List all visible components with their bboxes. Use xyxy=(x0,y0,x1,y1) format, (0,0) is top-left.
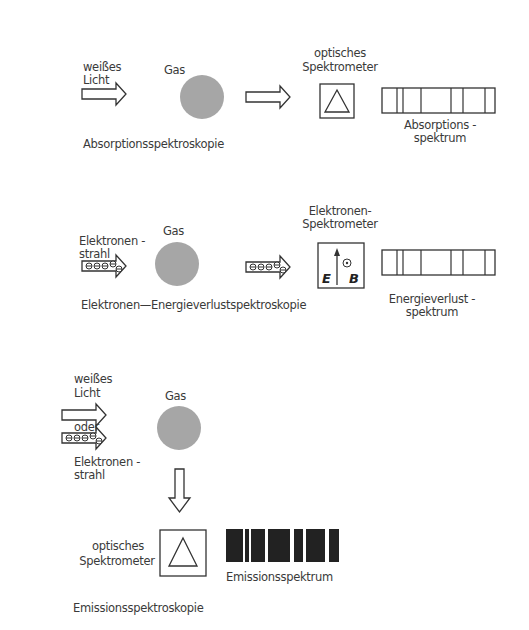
spectrometer-label: Spektrometer xyxy=(300,61,380,73)
spectrometer-label: Spektrometer xyxy=(300,218,380,230)
source-label: strahl xyxy=(79,248,110,260)
transmitted-beam-arrow xyxy=(246,86,290,108)
b-field-symbol: B xyxy=(349,271,359,286)
source-label: strahl xyxy=(74,469,105,481)
spectrometer-label: Elektronen- xyxy=(300,205,380,217)
spectrum-label: spektrum xyxy=(377,306,487,318)
method-label: Elektronen—Energieverlustspektroskopie xyxy=(81,299,306,311)
gas-sample xyxy=(155,242,199,286)
spectrometer-label: optisches xyxy=(305,47,375,59)
emission-line xyxy=(329,529,339,562)
gas-sample xyxy=(157,406,201,450)
source-label: Licht xyxy=(83,74,109,86)
or-label: oder xyxy=(74,421,99,433)
emitted-light-arrow xyxy=(169,469,190,512)
source-label: Licht xyxy=(74,387,100,399)
e-field-symbol: E xyxy=(322,271,331,286)
optical-spectrometer xyxy=(160,530,206,576)
electron-spectrometer: E B xyxy=(318,243,364,288)
spectrometer-label: Spektrometer xyxy=(76,555,158,567)
gas-sample xyxy=(180,75,224,119)
source-label: weißes xyxy=(83,61,121,73)
emission-line xyxy=(226,529,243,562)
source-label: Elektronen - xyxy=(74,456,140,468)
method-label: Emissionsspektroskopie xyxy=(73,602,203,614)
gas-label: Gas xyxy=(164,64,185,76)
optical-spectrometer xyxy=(320,84,354,118)
gas-label: Gas xyxy=(163,225,184,237)
emission-spectrum xyxy=(226,529,339,562)
spectrum-label: Energieverlust - xyxy=(377,293,487,305)
scattered-electron-arrow xyxy=(246,256,290,278)
emission-line xyxy=(306,529,325,562)
energy-loss-spectrum xyxy=(382,250,495,275)
emission-line xyxy=(294,529,303,562)
source-label: Elektronen - xyxy=(79,235,145,247)
emission-line xyxy=(245,529,249,562)
emission-line xyxy=(268,529,290,562)
gas-label: Gas xyxy=(165,390,186,402)
spectrometer-label: optisches xyxy=(78,540,158,552)
method-label: Absorptionsspektroskopie xyxy=(83,138,224,150)
spectrum-label: spektrum xyxy=(385,132,495,144)
emission-line xyxy=(251,529,265,562)
absorption-spectrum xyxy=(382,88,495,113)
spectrum-label: Emissionsspektrum xyxy=(226,571,333,583)
source-label: weißes xyxy=(74,373,112,385)
spectrum-label: Absorptions - xyxy=(385,119,495,131)
